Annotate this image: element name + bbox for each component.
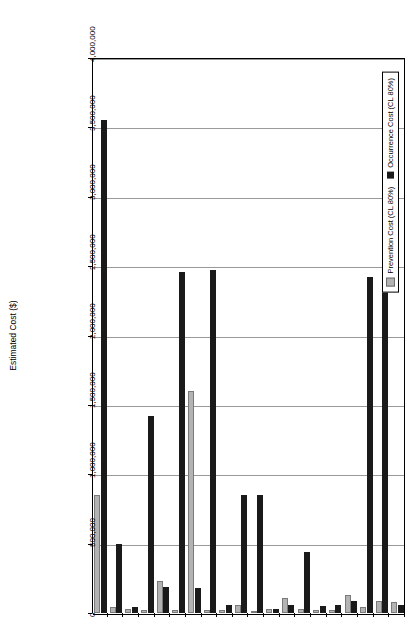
chart-legend: Prevention Cost (CL 80%)Occurrence Cost … (382, 72, 399, 293)
category-tick (248, 613, 249, 617)
value-tick-label: 0 (88, 612, 97, 616)
category-tick (169, 613, 170, 617)
category-tick (310, 613, 311, 617)
category-tick (326, 613, 327, 617)
chart-canvas: ARD RemediationNoise RemediationFuel Tra… (0, 0, 413, 619)
category-tick (138, 613, 139, 617)
prevention-cost-swatch-icon (386, 278, 395, 287)
category-tick (185, 613, 186, 617)
category-tick (404, 613, 405, 617)
value-axis: Estimated Cost ($) 0500,0001,000,0001,50… (0, 58, 92, 613)
category-tick (107, 613, 108, 617)
category-tick (263, 613, 264, 617)
category-tick (232, 613, 233, 617)
category-tick (357, 613, 358, 617)
category-tick (373, 613, 374, 617)
bar-chart-figure: ARD RemediationNoise RemediationFuel Tra… (0, 0, 413, 619)
legend-label: Occurrence Cost (CL 80%) (386, 78, 395, 168)
value-tick-label: 500,000 (88, 518, 97, 547)
legend-item: Occurrence Cost (CL 80%) (386, 78, 395, 179)
value-tick-label: 4,000,000 (88, 26, 97, 62)
category-tick (279, 613, 280, 617)
x-axis-title: Estimated Cost ($) (8, 58, 18, 613)
category-tick (201, 613, 202, 617)
category-tick (122, 613, 123, 617)
value-tick-label: 3,000,000 (88, 165, 97, 201)
occurrence-cost-swatch-icon (387, 172, 394, 179)
value-tick-label: 3,500,000 (88, 95, 97, 131)
category-tick (216, 613, 217, 617)
value-tick-label: 1,500,000 (88, 373, 97, 409)
category-labels: ARD RemediationNoise RemediationFuel Tra… (92, 58, 405, 613)
category-tick (388, 613, 389, 617)
value-tick-label: 2,000,000 (88, 303, 97, 339)
value-tick-label: 1,000,000 (88, 442, 97, 478)
legend-label: Prevention Cost (CL 80%) (386, 187, 395, 274)
category-tick (154, 613, 155, 617)
category-tick (294, 613, 295, 617)
legend-item: Prevention Cost (CL 80%) (386, 187, 395, 287)
category-tick (341, 613, 342, 617)
value-tick-label: 2,500,000 (88, 234, 97, 270)
